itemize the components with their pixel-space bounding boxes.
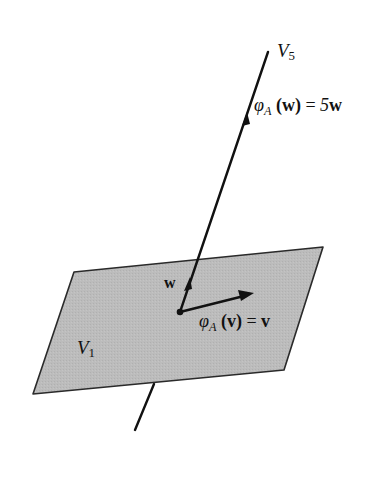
phi-arg: (v) bbox=[221, 311, 242, 331]
phi-sub: A bbox=[209, 320, 216, 334]
coef: 5 bbox=[320, 95, 329, 115]
w-vector-label: w bbox=[164, 274, 176, 292]
phi-arg: (w) bbox=[276, 95, 301, 115]
rhs-vector: w bbox=[329, 95, 342, 115]
v1-plane bbox=[33, 247, 323, 394]
rhs-vector: v bbox=[261, 311, 270, 331]
phi-sub: A bbox=[264, 104, 271, 118]
v5-line-lower bbox=[135, 384, 154, 430]
v5-label-main: V bbox=[277, 40, 289, 61]
phi-v-label: φA (v) = v bbox=[199, 311, 270, 335]
v1-label: V1 bbox=[77, 337, 95, 361]
v5-label: V5 bbox=[277, 40, 295, 64]
eigenspace-diagram: V5 φA (w) = 5w w φA (v) = v V1 bbox=[0, 0, 384, 488]
v1-label-main: V bbox=[77, 337, 89, 358]
phi-symbol: φ bbox=[254, 95, 264, 115]
v1-label-sub: 1 bbox=[89, 345, 95, 360]
equals: = bbox=[242, 311, 261, 331]
diagram-canvas bbox=[0, 0, 384, 488]
equals: = bbox=[301, 95, 320, 115]
phi-w-label: φA (w) = 5w bbox=[254, 95, 342, 119]
origin-dot bbox=[177, 309, 184, 316]
phi-symbol: φ bbox=[199, 311, 209, 331]
v5-label-sub: 5 bbox=[289, 48, 295, 63]
